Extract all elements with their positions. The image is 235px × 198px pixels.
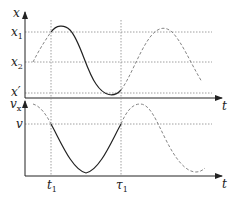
t-axis-label-bottom: t (222, 177, 227, 191)
v-level-label: v (16, 117, 23, 131)
position-curve-dashed-before (33, 32, 51, 62)
velocity-curve-dashed-before (33, 104, 51, 124)
velocity-curve-dashed-after (121, 104, 205, 172)
x-axis-label: x (13, 6, 20, 20)
motion-diagram: x t x1 x2 x′ vx v t t1 τ1 (0, 0, 235, 198)
velocity-curve-solid (51, 124, 121, 173)
x2-label: x2 (11, 55, 23, 71)
bottom-plot: vx v t t1 τ1 (10, 97, 227, 194)
position-curve-dashed-after (121, 28, 202, 90)
top-plot: x t x1 x2 x′ (11, 6, 227, 113)
t-axis-label-top: t (222, 99, 227, 113)
tau1-label: τ1 (116, 178, 128, 194)
x1-label: x1 (11, 25, 23, 41)
position-curve-solid (51, 26, 121, 95)
t1-label: t1 (47, 178, 57, 194)
vx-axis-label: vx (10, 97, 22, 113)
